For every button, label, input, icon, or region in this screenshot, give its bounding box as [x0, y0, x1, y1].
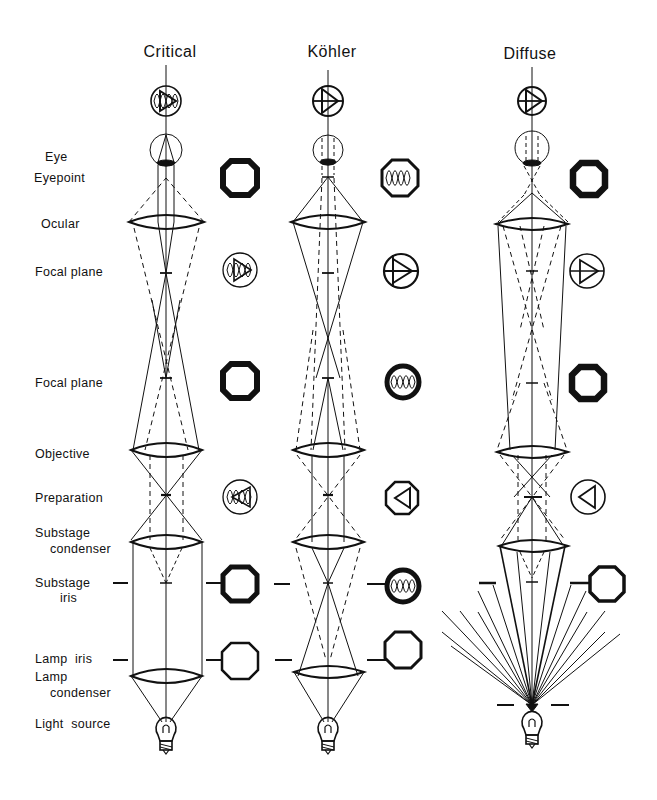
- label-eye: Eye: [45, 150, 67, 165]
- label-lamp-condenser: condenser: [50, 686, 111, 701]
- kohler-side-symbols: [382, 160, 421, 668]
- preparation-image-icon: [223, 480, 257, 514]
- diffuse-substage-condenser-lens: [499, 540, 568, 552]
- preparation-triangle-icon: [571, 480, 605, 514]
- critical-side-symbols: [222, 161, 258, 679]
- eyepoint-thick-ring-icon: [573, 163, 605, 195]
- focal-plane-image-icon: [223, 253, 257, 287]
- kohler-column: [274, 70, 386, 754]
- diffuse-side-symbols: [570, 163, 624, 601]
- substage-iris-filament-icon: [387, 570, 419, 602]
- focal-plane-thick-ring-icon: [223, 364, 257, 398]
- focal-plane-filament-icon: [387, 366, 419, 398]
- diffuse-ray-fan: [442, 546, 620, 705]
- kohler-lamp-condenser-lens: [294, 666, 364, 678]
- label-substage-iris-line1: Substage: [35, 576, 90, 591]
- critical-light-bulb-icon: [156, 717, 176, 754]
- substage-iris-thin-ring-icon: [590, 567, 624, 601]
- focal-plane-crosshair-icon: [384, 254, 418, 288]
- label-eyepoint: Eyepoint: [34, 171, 85, 186]
- label-preparation: Preparation: [35, 491, 103, 506]
- column-title-kohler: Köhler: [307, 43, 356, 61]
- label-substage-condenser: condenser: [50, 542, 111, 557]
- lamp-iris-thin-ring-icon: [222, 643, 258, 679]
- label-focal-plane-1: Focal plane: [35, 265, 103, 280]
- label-focal-plane-2: Focal plane: [35, 376, 103, 391]
- substage-iris-thick-ring-icon: [223, 567, 257, 601]
- label-lamp-iris: Lamp iris: [35, 652, 92, 667]
- focal-plane-thick-ring-icon: [572, 367, 604, 399]
- label-ocular: Ocular: [41, 217, 80, 232]
- label-substage: Substage: [35, 526, 90, 541]
- label-lamp: Lamp: [35, 670, 67, 685]
- preparation-triangle-icon: [386, 482, 418, 514]
- label-light-source: Light source: [35, 717, 110, 732]
- focal-plane-crosshair-icon: [570, 254, 604, 288]
- eyepoint-thick-ring-icon: [223, 161, 257, 195]
- label-objective: Objective: [35, 447, 90, 462]
- column-title-diffuse: Diffuse: [503, 45, 556, 63]
- illumination-diagram: [0, 0, 657, 800]
- diffuse-light-bulb-icon: [522, 711, 542, 748]
- eyepoint-filament-icon: [382, 160, 418, 196]
- kohler-light-bulb-icon: [318, 717, 338, 754]
- critical-column: [113, 65, 222, 754]
- diffuse-column: [442, 67, 620, 748]
- label-substage-iris-line2: iris: [60, 591, 77, 606]
- column-title-critical: Critical: [144, 43, 197, 61]
- lamp-iris-thin-ring-icon: [385, 632, 421, 668]
